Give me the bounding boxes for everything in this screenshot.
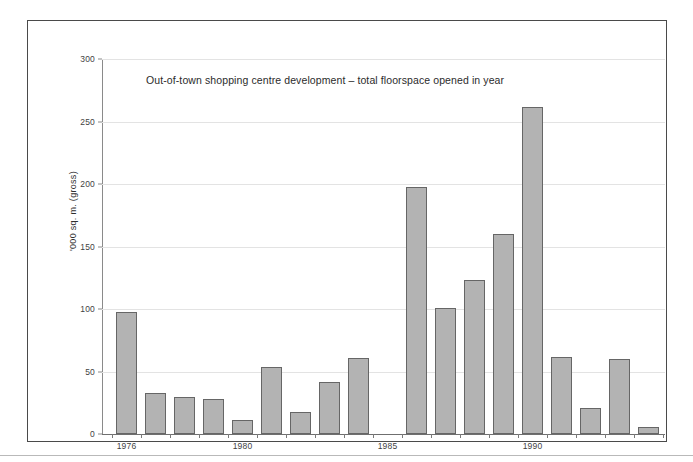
y-tick-mark-200 — [98, 184, 102, 185]
y-tick-mark-100 — [98, 309, 102, 310]
x-tick-mark — [518, 434, 519, 438]
gridline-50 — [102, 372, 665, 373]
bar-1989 — [493, 234, 514, 434]
y-tick-mark-300 — [98, 59, 102, 60]
y-tick-mark-250 — [98, 121, 102, 122]
bar-1983 — [319, 382, 340, 435]
x-tick-label-1990: 1990 — [523, 441, 543, 451]
bar-1984 — [348, 358, 369, 434]
bar-1981 — [261, 367, 282, 435]
y-tick-mark-50 — [98, 371, 102, 372]
y-tick-label-0: 0 — [90, 429, 95, 439]
x-tick-mark — [489, 434, 490, 438]
x-tick-mark — [228, 434, 229, 438]
x-tick-mark — [257, 434, 258, 438]
bar-1979 — [203, 399, 224, 434]
x-tick-mark — [141, 434, 142, 438]
bar-1980 — [232, 420, 253, 434]
x-tick-mark — [373, 434, 374, 438]
bar-1987 — [435, 308, 456, 434]
x-tick-mark — [663, 434, 664, 438]
y-tick-label-50: 50 — [85, 367, 95, 377]
x-tick-label-1976: 1976 — [117, 441, 137, 451]
x-tick-mark — [605, 434, 606, 438]
x-tick-label-1985: 1985 — [378, 441, 398, 451]
y-tick-label-100: 100 — [80, 304, 95, 314]
bar-1976 — [116, 312, 137, 435]
x-tick-mark — [431, 434, 432, 438]
x-tick-mark — [112, 434, 113, 438]
gridline-250 — [102, 122, 665, 123]
bar-1994 — [638, 427, 659, 435]
gridline-300 — [102, 59, 665, 60]
y-axis-title: '000 sq. m. (gross) — [68, 171, 78, 251]
bar-1988 — [464, 280, 485, 434]
bar-1978 — [174, 397, 195, 435]
x-tick-mark — [402, 434, 403, 438]
x-tick-mark — [199, 434, 200, 438]
y-tick-label-250: 250 — [80, 117, 95, 127]
x-tick-mark — [634, 434, 635, 438]
gridline-200 — [102, 184, 665, 185]
bar-1993 — [609, 359, 630, 434]
y-tick-mark-0 — [98, 434, 102, 435]
bar-chart-plot-area: 050100150200250300 1976198019851990 — [102, 59, 665, 434]
x-tick-mark — [344, 434, 345, 438]
bar-1990 — [522, 107, 543, 435]
x-tick-mark — [315, 434, 316, 438]
bar-1992 — [580, 408, 601, 434]
gridline-150 — [102, 247, 665, 248]
x-tick-mark — [170, 434, 171, 438]
y-tick-label-150: 150 — [80, 242, 95, 252]
x-tick-mark — [547, 434, 548, 438]
x-tick-label-1980: 1980 — [233, 441, 253, 451]
bar-1991 — [551, 357, 572, 435]
y-tick-label-200: 200 — [80, 179, 95, 189]
gridline-100 — [102, 309, 665, 310]
figure-frame: Out-of-town shopping centre development … — [27, 20, 667, 442]
footer-rule — [0, 455, 693, 456]
bar-1977 — [145, 393, 166, 434]
x-tick-mark — [576, 434, 577, 438]
gridline-0 — [102, 434, 665, 435]
x-tick-mark — [286, 434, 287, 438]
bar-1982 — [290, 412, 311, 435]
x-tick-mark — [460, 434, 461, 438]
bar-1986 — [406, 187, 427, 435]
y-tick-label-300: 300 — [80, 54, 95, 64]
y-tick-mark-150 — [98, 246, 102, 247]
